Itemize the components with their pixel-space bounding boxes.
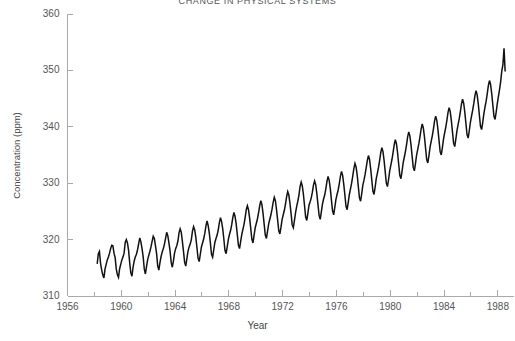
y-tick-label: 350 — [20, 65, 60, 75]
x-tick-label: 1976 — [306, 302, 366, 312]
y-tick-label: 320 — [20, 235, 60, 245]
chart-container: CHANGE IN PHYSICAL SYSTEMS Concentration… — [0, 0, 515, 341]
y-tick-label: 330 — [20, 178, 60, 188]
x-tick-label: 1956 — [38, 302, 98, 312]
x-tick-label: 1968 — [199, 302, 259, 312]
y-tick-label: 310 — [20, 291, 60, 301]
y-tick-label: 360 — [20, 9, 60, 19]
y-tick-label: 340 — [20, 122, 60, 132]
x-tick-label: 1972 — [253, 302, 313, 312]
x-tick-label: 1960 — [91, 302, 151, 312]
data-series-line — [97, 48, 505, 278]
plot-area — [0, 0, 515, 341]
x-tick-label: 1980 — [360, 302, 420, 312]
x-tick-label: 1964 — [145, 302, 205, 312]
x-tick-label: 1984 — [414, 302, 474, 312]
x-tick-label: 1988 — [468, 302, 515, 312]
